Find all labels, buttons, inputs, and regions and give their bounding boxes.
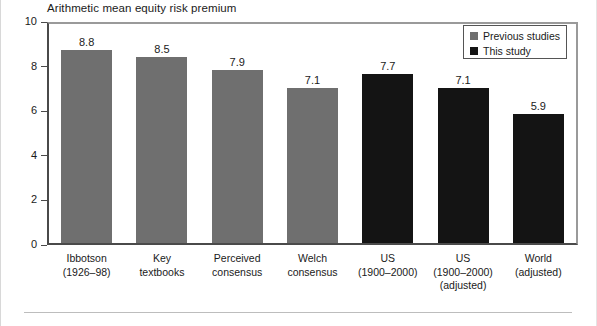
legend-swatch-icon (470, 32, 478, 40)
bar-value-label: 7.9 (212, 56, 263, 68)
bar-slot[interactable]: 8.8 (61, 24, 112, 243)
legend-label: Previous studies (483, 30, 560, 42)
legend-item-this-study: This study (470, 44, 566, 58)
bar[interactable] (61, 50, 112, 243)
x-axis-category-label: Keytextbooks (124, 252, 199, 279)
x-axis-category-line: consensus (200, 266, 275, 280)
x-axis-category-label: World(adjusted) (501, 252, 576, 279)
bar[interactable] (438, 88, 489, 243)
bar-slot[interactable]: 7.1 (287, 24, 338, 243)
x-axis-category-line: Perceived (200, 252, 275, 266)
y-axis-tick-label: 6 (3, 104, 37, 116)
bar-slot[interactable]: 7.7 (362, 24, 413, 243)
x-axis-category-line: US (350, 252, 425, 266)
x-axis-category-line: (adjusted) (501, 266, 576, 280)
bar[interactable] (212, 70, 263, 243)
legend-item-previous-studies: Previous studies (470, 29, 566, 43)
legend-label: This study (483, 45, 531, 57)
footer-divider (24, 312, 572, 313)
x-axis-category-label: Ibbotson(1926–98) (49, 252, 124, 279)
x-axis-category-line: (1900–2000) (350, 266, 425, 280)
bar-value-label: 8.5 (136, 43, 187, 55)
chart-title: Arithmetic mean equity risk premium (47, 2, 236, 14)
bar-slot[interactable]: 7.9 (212, 24, 263, 243)
x-axis-category-line: Welch (275, 252, 350, 266)
bar[interactable] (136, 57, 187, 243)
legend-swatch-icon (470, 47, 478, 55)
x-axis-category-label: Perceivedconsensus (200, 252, 275, 279)
x-axis-category-line: textbooks (124, 266, 199, 280)
x-axis-category-line: Key (124, 252, 199, 266)
x-axis-category-line: consensus (275, 266, 350, 280)
bar[interactable] (513, 114, 564, 243)
x-axis-category-line: World (501, 252, 576, 266)
y-axis-tick (41, 245, 47, 246)
x-axis-category-line: (adjusted) (425, 279, 500, 293)
y-axis-tick-label: 2 (3, 193, 37, 205)
x-axis-category-line: Ibbotson (49, 252, 124, 266)
chart-figure: Arithmetic mean equity risk premium 1086… (0, 0, 597, 326)
bar-value-label: 7.1 (438, 74, 489, 86)
y-axis-tick (41, 111, 47, 112)
y-axis-tick (41, 155, 47, 156)
y-axis-tick-label: 0 (3, 238, 37, 250)
y-axis-tick (41, 66, 47, 67)
y-axis-tick-label: 8 (3, 60, 37, 72)
bar-value-label: 7.1 (287, 74, 338, 86)
page-edge-left (0, 0, 1, 326)
x-axis-category-line: (1900–2000) (425, 266, 500, 280)
y-axis-tick-label: 10 (3, 15, 37, 27)
x-axis-category-line: (1926–98) (49, 266, 124, 280)
x-axis-categories: Ibbotson(1926–98)KeytextbooksPerceivedco… (49, 252, 576, 310)
y-axis-tick-label: 4 (3, 149, 37, 161)
x-axis-category-line: US (425, 252, 500, 266)
bar-value-label: 5.9 (513, 100, 564, 112)
x-axis-category-label: US(1900–2000) (350, 252, 425, 279)
y-axis-tick (41, 200, 47, 201)
bar-value-label: 7.7 (362, 60, 413, 72)
bar-slot[interactable]: 8.5 (136, 24, 187, 243)
y-axis-tick (41, 22, 47, 23)
x-axis-category-label: US(1900–2000)(adjusted) (425, 252, 500, 293)
bar-value-label: 8.8 (61, 36, 112, 48)
bar[interactable] (362, 74, 413, 243)
x-axis-category-label: Welchconsensus (275, 252, 350, 279)
chart-legend: Previous studies This study (463, 25, 567, 59)
bar[interactable] (287, 88, 338, 243)
